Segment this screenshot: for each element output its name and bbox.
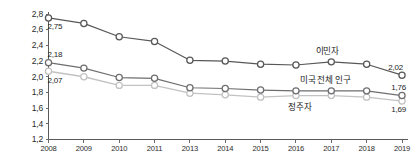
data-point-marker xyxy=(328,88,334,94)
x-tick-label: 2009 xyxy=(76,144,92,153)
x-tick-label: 2014 xyxy=(217,144,233,153)
x-tick-label: 2008 xyxy=(40,144,56,153)
data-point-marker xyxy=(45,60,51,66)
x-axis-tick-labels: 2008200920102011201320142015201620172018… xyxy=(40,144,410,153)
data-point-marker xyxy=(116,82,122,88)
y-tick-label: 1,8 xyxy=(32,87,44,97)
series-name-label: 정주자 xyxy=(288,102,312,112)
series-name-label: 이민자 xyxy=(316,46,340,56)
data-value-label: 2,75 xyxy=(48,22,64,31)
x-tick-label: 2015 xyxy=(253,144,269,153)
data-point-marker xyxy=(222,58,228,64)
y-tick-label: 2,0 xyxy=(32,72,44,82)
data-point-marker xyxy=(222,92,228,98)
y-tick-label: 1,2 xyxy=(32,134,44,144)
data-value-label: 1,76 xyxy=(391,83,407,92)
data-point-marker xyxy=(116,74,122,80)
y-tick-label: 2,4 xyxy=(32,40,44,50)
data-point-marker xyxy=(364,88,370,94)
data-point-marker xyxy=(187,85,193,91)
series-value-labels: 2,752,182,072,021,761,69 xyxy=(48,22,407,114)
x-tick-label: 2011 xyxy=(147,144,163,153)
data-point-marker xyxy=(364,94,370,100)
data-value-label: 1,69 xyxy=(391,105,407,114)
line-chart: 1,21,41,61,82,02,22,42,62,8 200820092010… xyxy=(0,0,411,167)
data-point-marker xyxy=(258,61,264,67)
y-tick-label: 1,6 xyxy=(32,103,44,113)
chart-axes xyxy=(46,12,409,143)
chart-canvas: 1,21,41,61,82,02,22,42,62,8 200820092010… xyxy=(0,0,411,167)
data-point-marker xyxy=(258,87,264,93)
data-point-marker xyxy=(399,92,405,98)
x-tick-label: 2018 xyxy=(359,144,375,153)
x-tick-label: 2010 xyxy=(111,144,127,153)
data-point-marker xyxy=(187,57,193,63)
data-value-label: 2,18 xyxy=(48,50,64,59)
data-point-marker xyxy=(258,94,264,100)
data-point-marker xyxy=(81,65,87,71)
y-tick-label: 2,8 xyxy=(32,9,44,19)
data-point-marker xyxy=(222,85,228,91)
data-point-marker xyxy=(293,88,299,94)
x-tick-label: 2017 xyxy=(323,144,339,153)
data-point-marker xyxy=(45,68,51,74)
y-axis-tick-labels: 1,21,41,61,82,02,22,42,62,8 xyxy=(32,9,44,145)
data-value-label: 2,07 xyxy=(48,76,64,85)
y-tick-label: 1,4 xyxy=(32,119,44,129)
data-point-marker xyxy=(45,15,51,21)
data-point-marker xyxy=(151,82,157,88)
x-tick-label: 2019 xyxy=(394,144,410,153)
series-name-label: 미국 전체 인구 xyxy=(300,75,351,85)
data-value-label: 2,02 xyxy=(388,63,404,72)
data-point-marker xyxy=(293,62,299,68)
data-point-marker xyxy=(81,20,87,26)
series-line xyxy=(49,18,403,75)
series-name-labels: 이민자미국 전체 인구정주자 xyxy=(288,46,351,112)
data-point-marker xyxy=(364,61,370,67)
data-point-marker xyxy=(328,59,334,65)
data-point-marker xyxy=(81,74,87,80)
y-tick-label: 2,6 xyxy=(32,24,44,34)
data-point-marker xyxy=(399,72,405,78)
data-point-marker xyxy=(116,34,122,40)
data-point-marker xyxy=(151,38,157,44)
x-tick-label: 2013 xyxy=(182,144,198,153)
y-tick-label: 2,2 xyxy=(32,56,44,66)
x-tick-label: 2016 xyxy=(288,144,304,153)
data-point-marker xyxy=(151,75,157,81)
